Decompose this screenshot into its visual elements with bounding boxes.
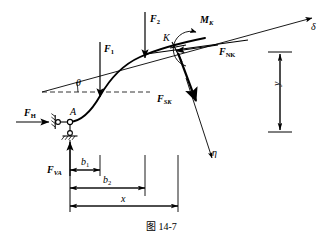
figure-caption: 图 14-7: [146, 218, 177, 233]
force-label-fsk: FSK: [157, 94, 172, 104]
force-label-fva: FVA: [47, 165, 62, 175]
point-label-k: K: [163, 33, 170, 43]
moment-label-mk: MK: [200, 15, 213, 25]
force-label-f1: F1: [104, 44, 114, 54]
dimension-y: [268, 52, 292, 132]
force-label-fnk: FNK: [219, 47, 235, 57]
dimension-label-b2: b2: [103, 175, 111, 185]
dimension-label-y: y: [272, 82, 282, 86]
force-fsk-arrow: [178, 53, 196, 101]
support-a-assembly: [51, 114, 77, 140]
axis-label-eta: η: [212, 148, 217, 158]
force-label-fh: FH: [24, 108, 36, 118]
angle-label-theta: θ: [76, 78, 81, 88]
arch-curve: [70, 38, 205, 122]
dimension-label-b1: b1: [81, 157, 89, 167]
figure-container: FH FVA F1 F2 FNK FSK MK K A δ η θ b1 b2 …: [0, 0, 335, 240]
point-label-a: A: [70, 107, 76, 117]
eta-axis-line: [186, 78, 212, 158]
force-label-f2: F2: [150, 14, 160, 24]
axis-label-delta: δ: [311, 22, 316, 32]
dimension-label-x: x: [121, 194, 125, 204]
